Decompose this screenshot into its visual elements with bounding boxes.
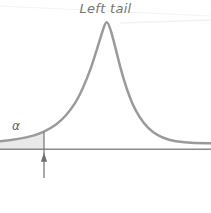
critical-value-caption: Critical t value (negative) <box>13 181 109 213</box>
chart-title: Left tail <box>0 1 211 16</box>
t-distribution-curve <box>0 22 211 143</box>
left-tail-distribution-figure: Left tail α Critical t value (negative) <box>0 0 211 213</box>
critical-value-arrow <box>41 153 47 179</box>
caption-line-1: Critical t value <box>13 211 109 213</box>
caption-suffix: value <box>69 211 109 213</box>
alpha-region-label: α <box>12 119 20 133</box>
caption-prefix: Critical <box>13 211 63 213</box>
